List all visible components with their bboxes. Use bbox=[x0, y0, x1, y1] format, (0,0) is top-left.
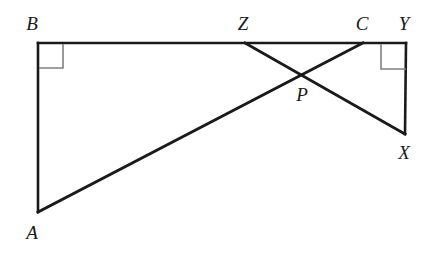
geometry-canvas bbox=[0, 0, 437, 253]
right-angle-at-B bbox=[39, 44, 63, 68]
geometry-figure: B Z C Y P X A bbox=[0, 0, 437, 253]
vertex-label-z: Z bbox=[238, 14, 249, 33]
vertex-label-p: P bbox=[296, 85, 308, 104]
segment-AC bbox=[38, 43, 363, 212]
right-angle-at-Y bbox=[381, 44, 406, 69]
segment-XY bbox=[405, 43, 406, 134]
vertex-label-c: C bbox=[356, 14, 369, 33]
segments-group bbox=[38, 43, 406, 212]
vertex-label-a: A bbox=[26, 223, 38, 242]
vertex-label-b: B bbox=[26, 14, 38, 33]
vertex-label-x: X bbox=[398, 143, 410, 162]
vertex-label-y: Y bbox=[399, 14, 410, 33]
